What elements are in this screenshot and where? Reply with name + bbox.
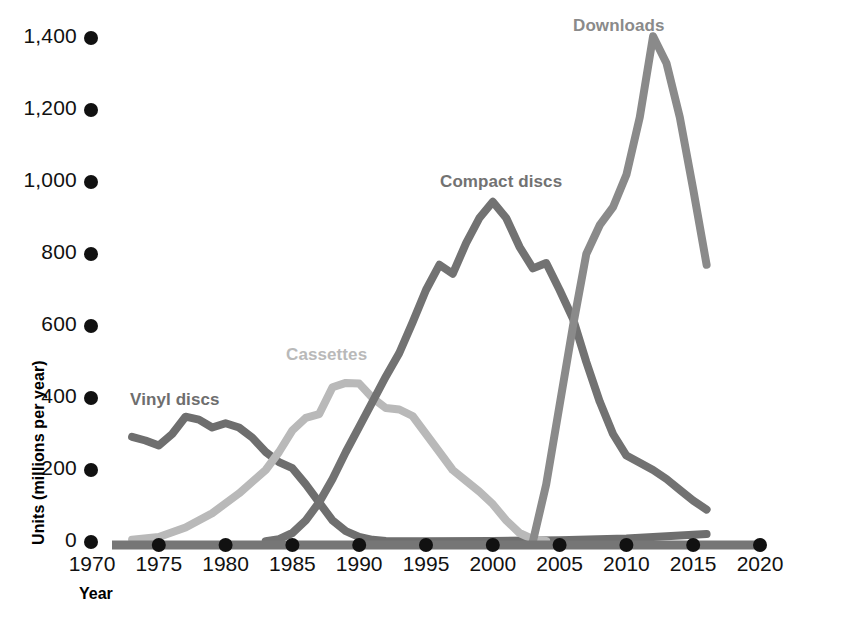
series-label-cassettes: Cassettes bbox=[286, 345, 367, 365]
x-tick-marker bbox=[419, 538, 433, 552]
y-tick-marker bbox=[84, 463, 98, 477]
x-tick-label: 2000 bbox=[458, 552, 528, 576]
x-tick-label: 2020 bbox=[725, 552, 795, 576]
x-tick-label: 1980 bbox=[191, 552, 261, 576]
x-tick-label: 1970 bbox=[57, 552, 127, 576]
y-tick-marker bbox=[84, 391, 98, 405]
x-axis-title: Year bbox=[79, 585, 113, 603]
x-tick-marker bbox=[352, 538, 366, 552]
series-label-downloads: Downloads bbox=[573, 16, 665, 36]
x-tick-label: 1990 bbox=[324, 552, 394, 576]
x-tick-marker bbox=[486, 538, 500, 552]
x-tick-label: 1995 bbox=[391, 552, 461, 576]
chart-container: 02004006008001,0001,2001,400 19701975198… bbox=[0, 0, 857, 626]
x-tick-marker bbox=[686, 538, 700, 552]
y-axis-title: Units (millions per year) bbox=[30, 360, 48, 545]
y-tick-marker bbox=[84, 31, 98, 45]
x-tick-label: 2015 bbox=[658, 552, 728, 576]
y-tick-label: 800 bbox=[0, 240, 77, 264]
x-tick-label: 2005 bbox=[525, 552, 595, 576]
series-label-vinyl-discs: Vinyl discs bbox=[130, 390, 220, 410]
y-tick-marker bbox=[84, 103, 98, 117]
x-tick-marker bbox=[285, 538, 299, 552]
series-label-compact-discs: Compact discs bbox=[440, 172, 562, 192]
y-tick-label: 1,200 bbox=[0, 96, 77, 120]
x-tick-label: 2010 bbox=[591, 552, 661, 576]
chart-plot-area bbox=[0, 0, 857, 626]
series-line-vinyl-discs bbox=[132, 417, 707, 542]
x-tick-marker bbox=[219, 538, 233, 552]
y-tick-label: 600 bbox=[0, 312, 77, 336]
x-tick-marker bbox=[753, 538, 767, 552]
y-tick-marker bbox=[84, 319, 98, 333]
y-tick-label: 1,400 bbox=[0, 24, 77, 48]
series-line-compact-discs bbox=[266, 202, 707, 542]
x-tick-label: 1975 bbox=[124, 552, 194, 576]
y-tick-label: 1,000 bbox=[0, 168, 77, 192]
y-tick-marker bbox=[84, 535, 98, 549]
x-tick-marker bbox=[152, 538, 166, 552]
y-tick-marker bbox=[84, 247, 98, 261]
x-tick-marker bbox=[553, 538, 567, 552]
x-tick-marker bbox=[619, 538, 633, 552]
x-tick-label: 1985 bbox=[257, 552, 327, 576]
y-tick-marker bbox=[84, 175, 98, 189]
